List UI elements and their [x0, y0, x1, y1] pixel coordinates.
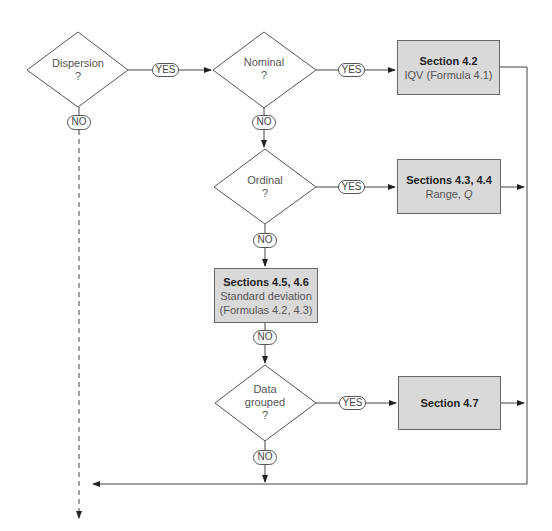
range-q-text: Range, Q — [425, 188, 472, 200]
yes-label-ordinal: YES — [338, 180, 365, 194]
yes-label-grouped: YES — [339, 396, 366, 410]
decision-dispersion-question: ? — [28, 70, 128, 83]
box-section-4-7-title: Section 4.7 — [420, 396, 478, 410]
no-label-ordinal: NO — [253, 233, 277, 248]
decision-grouped: Data grouped ? — [215, 383, 315, 422]
box-section-4-7: Section 4.7 — [398, 376, 501, 430]
decision-ordinal: Ordinal ? — [215, 174, 315, 200]
box-sections-4-3-4-4-sub: Range, Q — [425, 187, 472, 201]
decision-ordinal-question: ? — [215, 187, 315, 200]
box-sections-4-3-4-4-title: Sections 4.3, 4.4 — [406, 173, 492, 187]
no-label-dispersion: NO — [67, 115, 91, 130]
box-sections-4-3-4-4: Sections 4.3, 4.4 Range, Q — [397, 159, 501, 214]
box-section-4-2-title: Section 4.2 — [419, 54, 477, 68]
decision-nominal: Nominal ? — [214, 56, 314, 82]
box-section-4-2: Section 4.2 IQV (Formula 4.1) — [397, 40, 500, 95]
decision-nominal-question: ? — [214, 69, 314, 82]
decision-grouped-text2: grouped — [215, 396, 315, 409]
no-label-std-dev: NO — [253, 330, 277, 345]
decision-nominal-text: Nominal — [214, 56, 314, 69]
box-sections-4-5-4-6-sub1: Standard deviation — [220, 289, 312, 303]
decision-dispersion: Dispersion ? — [28, 57, 128, 83]
no-label-nominal: NO — [252, 115, 276, 130]
decision-dispersion-text: Dispersion — [28, 57, 128, 70]
yes-label-dispersion: YES — [152, 63, 179, 77]
box-sections-4-5-4-6-sub2: (Formulas 4.2, 4.3) — [220, 303, 313, 317]
decision-grouped-question: ? — [215, 409, 315, 422]
box-sections-4-5-4-6: Sections 4.5, 4.6 Standard deviation (Fo… — [214, 268, 318, 323]
decision-grouped-text1: Data — [215, 383, 315, 396]
box-section-4-2-sub: IQV (Formula 4.1) — [404, 68, 492, 82]
decision-ordinal-text: Ordinal — [215, 174, 315, 187]
box-sections-4-5-4-6-title: Sections 4.5, 4.6 — [223, 275, 309, 289]
yes-label-nominal: YES — [338, 63, 365, 77]
no-label-grouped: NO — [253, 450, 277, 465]
